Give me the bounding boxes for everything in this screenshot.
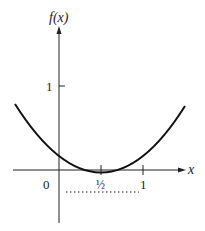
x-tick-label-0: 0: [43, 177, 50, 192]
y-axis-arrow-icon: [57, 26, 62, 34]
parabola-curve: [15, 104, 185, 173]
parabola-diagram: f(x) x 1 0 ½ 1: [0, 0, 205, 231]
x-tick-label-1: 1: [140, 177, 147, 192]
x-axis-label: x: [187, 162, 195, 177]
x-axis-arrow-icon: [178, 168, 186, 173]
y-axis-label: f(x): [49, 10, 69, 26]
x-tick-label-half: ½: [96, 178, 105, 192]
y-tick-label-1: 1: [46, 79, 53, 94]
